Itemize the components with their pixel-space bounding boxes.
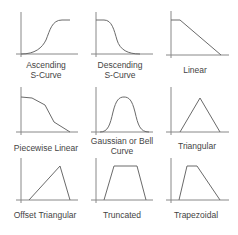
cell-offset-triangular: Offset Triangular bbox=[14, 158, 78, 220]
cell-triangular: Triangular bbox=[166, 87, 229, 151]
cell-truncated: Truncated bbox=[91, 158, 153, 220]
label-line-1: Gaussian or Bell bbox=[91, 136, 153, 146]
label-line-1: Offset Triangular bbox=[14, 210, 77, 220]
offset-triangular-shape bbox=[29, 166, 70, 200]
ascending-s-curve-shape bbox=[21, 20, 70, 54]
trapezoidal-shape bbox=[179, 166, 220, 200]
label-line-1: Truncated bbox=[103, 210, 141, 220]
label-line-2: Curve bbox=[111, 146, 134, 156]
triangular-shape bbox=[180, 98, 220, 132]
label-line-2: S-Curve bbox=[104, 70, 135, 80]
linear-shape bbox=[171, 20, 221, 55]
piecewise-linear-shape bbox=[21, 97, 70, 132]
cell-gaussian-bell-curve: Gaussian or Bell Curve bbox=[91, 87, 153, 156]
cell-linear: Linear bbox=[166, 11, 229, 75]
cell-trapezoidal: Trapezoidal bbox=[166, 158, 229, 220]
label-line-1: Piecewise Linear bbox=[14, 143, 78, 153]
cell-descending-s-curve: Descending S-Curve bbox=[91, 12, 153, 80]
label-line-1: Linear bbox=[183, 65, 207, 75]
membership-functions-diagram: Ascending S-Curve Descending S-Curve Lin… bbox=[0, 0, 238, 235]
descending-s-curve-shape bbox=[96, 20, 140, 54]
label-line-2: S-Curve bbox=[30, 70, 61, 80]
cell-piecewise-linear: Piecewise Linear bbox=[14, 87, 78, 153]
truncated-shape bbox=[104, 166, 146, 200]
label-line-1: Trapezoidal bbox=[174, 210, 218, 220]
label-line-1: Triangular bbox=[178, 141, 216, 151]
label-line-1: Descending bbox=[98, 60, 143, 70]
gaussian-curve-shape bbox=[100, 97, 149, 132]
label-line-1: Ascending bbox=[26, 60, 66, 70]
cell-ascending-s-curve: Ascending S-Curve bbox=[16, 12, 78, 80]
